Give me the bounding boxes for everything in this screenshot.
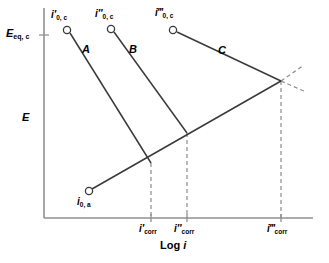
label-i0a: i0, a	[77, 197, 91, 207]
label-i0c-prime: i′0, c	[51, 10, 67, 20]
x-tick-label-icorr-1: i′corr	[139, 224, 157, 234]
curve-letter-a: A	[82, 44, 90, 55]
marker-i0c-doubleprime	[107, 25, 114, 32]
marker-i0c-tripleprime	[169, 26, 176, 33]
label-i0c-doubleprime: i″0, c	[95, 9, 113, 19]
cathodic-line-b	[114, 32, 187, 133]
dashed-extension-lower	[281, 81, 306, 92]
marker-i0c-prime	[63, 26, 70, 33]
marker-i0a	[85, 187, 92, 194]
curve-letter-c: C	[218, 45, 226, 56]
x-tick-label-icorr-3: i‴corr	[267, 224, 287, 234]
y-axis-title: E	[22, 112, 29, 123]
label-i0c-tripleprime: i‴0, c	[155, 8, 173, 18]
curve-letter-b: B	[129, 44, 137, 55]
x-tick-label-icorr-2: i″corr	[174, 224, 194, 234]
y-tick-label-eq-c: Eeq, c	[6, 28, 29, 39]
anodic-line	[92, 81, 281, 189]
dashed-extension-upper	[281, 65, 304, 81]
x-axis-title: Log i	[160, 240, 186, 251]
cathodic-line-c	[177, 32, 281, 81]
evans-diagram-figure: Eeq, c E i′0, c i″0, c i‴0, c i0, a A B …	[0, 0, 329, 263]
